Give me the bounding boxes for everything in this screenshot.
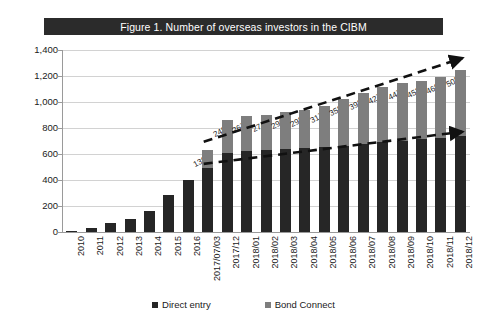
- bar-column: [86, 50, 97, 232]
- bar-segment-direct-entry: [358, 144, 369, 232]
- bar-segment-direct-entry: [397, 141, 408, 232]
- bar-column: [105, 50, 116, 232]
- y-tick-mark: [57, 128, 62, 129]
- bar-segment-bond-connect: [358, 93, 369, 144]
- x-tick-label: 2014: [153, 236, 163, 256]
- x-tick-label: 2010: [76, 236, 86, 256]
- bar-segment-bond-connect: [280, 112, 291, 150]
- legend-label: Bond Connect: [275, 299, 335, 310]
- y-tick-mark: [57, 232, 62, 233]
- x-tick-label: 2018/05: [328, 236, 338, 269]
- bar-segment-bond-connect: [455, 70, 466, 136]
- x-tick-label: 2018/01: [251, 236, 261, 269]
- bar-column: [183, 50, 194, 232]
- chart-legend: Direct entryBond Connect: [0, 299, 487, 310]
- y-axis-labels: 02004006008001,0001,2001,400: [8, 50, 58, 233]
- bar-column: [455, 50, 466, 232]
- x-tick-label: 2017/07/03: [212, 236, 222, 281]
- bar-column: [202, 50, 213, 232]
- y-tick-mark: [57, 154, 62, 155]
- y-tick-label: 800: [18, 122, 58, 133]
- bar-column: [144, 50, 155, 232]
- bar-segment-bond-connect: [435, 77, 446, 138]
- figure-title-bar: Figure 1. Number of overseas investors i…: [44, 18, 443, 35]
- x-tick-label: 2016: [192, 236, 202, 256]
- bar-segment-bond-connect: [299, 110, 310, 149]
- x-tick-label: 2018/06: [348, 236, 358, 269]
- x-tick-label: 2018/12: [464, 236, 474, 269]
- bar-column: [416, 50, 427, 232]
- y-tick-label: 200: [18, 200, 58, 211]
- x-tick-label: 2012: [115, 236, 125, 256]
- bar-column: [358, 50, 369, 232]
- y-tick-mark: [57, 206, 62, 207]
- bar-segment-direct-entry: [319, 147, 330, 232]
- x-tick-label: 2018/10: [425, 236, 435, 269]
- bar-segment-direct-entry: [183, 180, 194, 232]
- bar-segment-direct-entry: [86, 228, 97, 232]
- bar-column: [125, 50, 136, 232]
- bar-segment-direct-entry: [455, 136, 466, 232]
- x-tick-label: 2018/04: [309, 236, 319, 269]
- bar-segment-direct-entry: [222, 153, 233, 232]
- x-tick-label: 2018/03: [289, 236, 299, 269]
- legend-label: Direct entry: [162, 299, 211, 310]
- bar-segment-direct-entry: [66, 231, 77, 232]
- bar-segment-direct-entry: [261, 150, 272, 232]
- bar-segment-direct-entry: [377, 142, 388, 232]
- bar-segment-direct-entry: [125, 219, 136, 232]
- y-tick-label: 1,400: [18, 44, 58, 55]
- bar-segment-direct-entry: [202, 168, 213, 232]
- bar-column: [280, 50, 291, 232]
- bar-segment-direct-entry: [241, 151, 252, 232]
- y-tick-mark: [57, 102, 62, 103]
- x-tick-label: 2011: [95, 236, 105, 255]
- legend-item-direct-entry[interactable]: Direct entry: [152, 299, 211, 310]
- bar-column: [397, 50, 408, 232]
- bar-segment-direct-entry: [416, 139, 427, 232]
- square-marker-icon: [152, 302, 158, 308]
- bar-segment-direct-entry: [280, 149, 291, 232]
- y-tick-label: 1,200: [18, 70, 58, 81]
- y-tick-label: 600: [18, 148, 58, 159]
- bar-segment-direct-entry: [105, 223, 116, 232]
- figure-container: Figure 1. Number of overseas investors i…: [0, 0, 487, 330]
- bar-column: [163, 50, 174, 232]
- y-tick-label: 1,000: [18, 96, 58, 107]
- x-tick-label: 2017/12: [231, 236, 241, 269]
- bar-segment-bond-connect: [338, 99, 349, 146]
- bar-column: [66, 50, 77, 232]
- page-title: Figure 1. Number of overseas investors i…: [120, 21, 367, 33]
- x-tick-label: 2018/08: [387, 236, 397, 269]
- x-tick-label: 2018/07: [367, 236, 377, 269]
- bar-segment-direct-entry: [163, 195, 174, 232]
- x-tick-label: 2015: [173, 236, 183, 256]
- bar-column: [261, 50, 272, 232]
- bar-column: [319, 50, 330, 232]
- bar-segment-direct-entry: [299, 148, 310, 232]
- bar-column: [241, 50, 252, 232]
- x-tick-label: 2013: [134, 236, 144, 256]
- bar-column: [222, 50, 233, 232]
- x-tick-label: 2018/11: [445, 236, 455, 268]
- x-axis-line: [62, 232, 470, 233]
- y-tick-label: 400: [18, 174, 58, 185]
- bar-segment-direct-entry: [435, 138, 446, 232]
- bar-column: [377, 50, 388, 232]
- bar-segment-bond-connect: [202, 150, 213, 168]
- bar-series-group: 1392492672742902983173583934274474524695…: [62, 50, 470, 232]
- bar-column: [435, 50, 446, 232]
- bar-segment-bond-connect: [261, 115, 272, 151]
- y-tick-mark: [57, 50, 62, 51]
- bar-segment-bond-connect: [222, 120, 233, 152]
- x-tick-label: 2018/09: [406, 236, 416, 269]
- y-tick-mark: [57, 76, 62, 77]
- legend-item-bond-connect[interactable]: Bond Connect: [265, 299, 335, 310]
- y-tick-label: 0: [18, 226, 58, 237]
- bar-column: [299, 50, 310, 232]
- y-tick-mark: [57, 180, 62, 181]
- x-tick-label: 2018/02: [270, 236, 280, 269]
- bar-column: [338, 50, 349, 232]
- x-axis-labels: 20102011201220132014201520162017/07/0320…: [62, 236, 470, 296]
- bar-segment-bond-connect: [241, 116, 252, 151]
